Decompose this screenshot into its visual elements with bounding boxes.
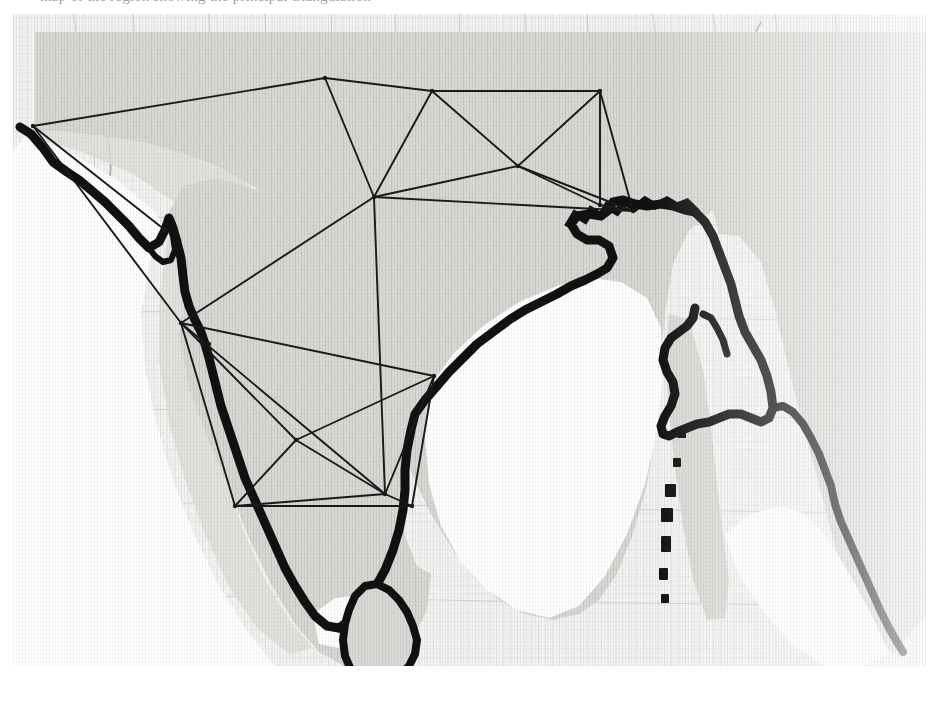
network-station-malabar-coast-node <box>207 342 211 346</box>
network-station-north-east-corner <box>598 89 602 93</box>
network-station-south-coast-terminus <box>410 504 414 508</box>
network-station-west-coast-junction <box>179 321 183 325</box>
right-margin-fade <box>653 14 926 666</box>
network-station-mid-east-junction <box>516 164 520 168</box>
network-station-east-coast-junction <box>598 203 602 207</box>
network-station-deccan-central <box>383 492 387 496</box>
map-figure <box>13 14 926 666</box>
network-station-north-west-terminus <box>31 124 35 128</box>
network-station-north-east-of-apex <box>430 89 434 93</box>
network-station-coromandel-junction <box>432 374 436 378</box>
screenshot-page: map of the region showing the principal … <box>0 0 949 725</box>
network-station-south-west-coast <box>233 504 237 508</box>
figure-caption-fragment: map of the region showing the principal … <box>0 0 949 4</box>
network-station-konkan-coast-node <box>163 228 167 232</box>
map-illustration <box>13 14 926 666</box>
network-station-central-hub <box>372 195 376 199</box>
network-station-east-coast-lower <box>631 209 635 213</box>
network-station-deccan-west <box>294 438 298 442</box>
network-station-north-apex <box>323 76 327 80</box>
